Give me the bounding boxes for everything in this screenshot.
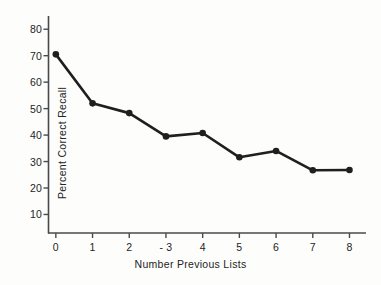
data-point-marker xyxy=(309,167,316,174)
y-axis-tick-label: 40 xyxy=(18,129,42,141)
x-axis-tick-label: 5 xyxy=(236,241,242,253)
data-point-marker xyxy=(163,133,170,140)
data-point-marker xyxy=(199,130,206,137)
x-axis-tick-label: 8 xyxy=(346,241,352,253)
x-axis-tick-label: 0 xyxy=(53,241,59,253)
y-axis-tick-label: 30 xyxy=(18,156,42,168)
y-axis-tick-label: 80 xyxy=(18,23,42,35)
x-axis-tick-label: 2 xyxy=(126,241,132,253)
chart-figure: 1020304050607080 012- 345678 Percent Cor… xyxy=(0,0,381,285)
x-axis-title: Number Previous Lists xyxy=(0,258,381,270)
x-axis-tick-label: 6 xyxy=(273,241,279,253)
x-axis-tick-label: - 3 xyxy=(160,241,173,253)
data-point-marker xyxy=(346,167,353,174)
y-axis-title: Percent Correct Recall xyxy=(56,86,68,198)
data-point-marker xyxy=(89,100,96,107)
data-point-marker xyxy=(273,148,280,155)
data-series-line xyxy=(56,54,350,170)
data-point-marker xyxy=(53,51,60,58)
data-point-marker xyxy=(126,110,133,117)
x-axis-tick-label: 4 xyxy=(200,241,206,253)
x-axis-tick-label: 7 xyxy=(310,241,316,253)
data-point-marker xyxy=(236,154,243,161)
y-axis-tick-label: 70 xyxy=(18,50,42,62)
data-point-markers xyxy=(53,51,353,174)
x-axis-tick-label: 1 xyxy=(90,241,96,253)
y-axis-tick-label: 10 xyxy=(18,208,42,220)
y-axis-tick-label: 50 xyxy=(18,103,42,115)
y-axis-tick-label: 20 xyxy=(18,182,42,194)
y-axis-tick-label: 60 xyxy=(18,76,42,88)
